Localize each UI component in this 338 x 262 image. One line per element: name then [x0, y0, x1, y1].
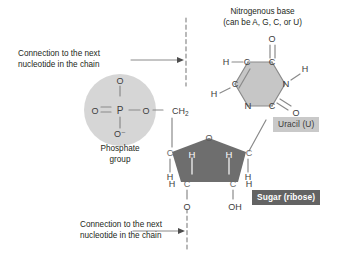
atom-n1: N	[245, 100, 252, 111]
atom-c4prime: C	[167, 148, 174, 158]
badge-sugar: Sugar (ribose)	[252, 190, 320, 205]
bottom-connection-line1: Connection to the next	[80, 220, 162, 231]
atom-o-right: O	[142, 106, 149, 116]
atom-h3: H	[302, 64, 309, 74]
top-connection-line2: nucleotide in the chain	[18, 60, 100, 71]
base-title: Nitrogenous base (can be A, G, C, or U)	[195, 6, 330, 28]
atom-o-top: O	[116, 76, 123, 86]
atom-o4prime: O	[205, 133, 212, 143]
atom-h6: H	[211, 89, 218, 99]
atom-p: P	[117, 105, 124, 116]
top-connection-note: Connection to the next nucleotide in the…	[18, 49, 100, 70]
atom-c3prime: C	[184, 179, 191, 189]
atom-n3: N	[283, 78, 290, 89]
atom-c1prime: C	[246, 148, 253, 158]
bond-c2-o-a	[277, 103, 288, 110]
atom-c5: C	[244, 57, 251, 67]
base-title-line1: Nitrogenous base	[195, 6, 330, 17]
bond-n3-h	[291, 74, 300, 80]
base-title-line2: (can be A, G, C, or U)	[195, 17, 330, 28]
bond-glycosidic	[249, 120, 266, 151]
badge-uracil: Uracil (U)	[273, 117, 319, 132]
arrowhead-bottom	[178, 228, 185, 234]
atom-o-left: O	[91, 106, 98, 116]
group-oh: OH	[228, 202, 242, 212]
atom-c4: C	[269, 57, 276, 67]
atom-o4: O	[268, 34, 275, 44]
atom-h5: H	[223, 57, 230, 67]
arrowhead-top	[177, 57, 184, 63]
atom-c2prime: C	[230, 179, 237, 189]
base-hexagon	[235, 62, 285, 106]
atom-h-inner-left: H	[189, 149, 196, 160]
bond-c6-h	[220, 88, 230, 93]
atom-o-bottom: O⁻	[114, 129, 126, 139]
atom-h-c3prime: H	[169, 179, 176, 189]
bottom-connection-line2: nucleotide in the chain	[80, 231, 162, 242]
atom-c6: C	[232, 79, 239, 89]
phosphate-label-line2: group	[82, 155, 158, 166]
nucleotide-diagram: P O O⁻ O O CH2 C C N C N C O O H H H O C…	[0, 0, 338, 262]
phosphate-label-line1: Phosphate	[82, 144, 158, 155]
phosphate-group-label: Phosphate group	[82, 144, 158, 165]
top-connection-line1: Connection to the next	[18, 49, 100, 60]
atom-h-c2prime: H	[246, 179, 253, 189]
bond-c2-o-b	[280, 99, 291, 106]
atom-o3prime: O	[183, 202, 190, 212]
bottom-connection-note: Connection to the next nucleotide in the…	[80, 220, 162, 241]
atom-h-inner-right: H	[226, 149, 233, 160]
sugar-pentagon	[172, 138, 246, 182]
atom-c2: C	[269, 101, 276, 111]
group-ch2: CH2	[172, 106, 189, 117]
